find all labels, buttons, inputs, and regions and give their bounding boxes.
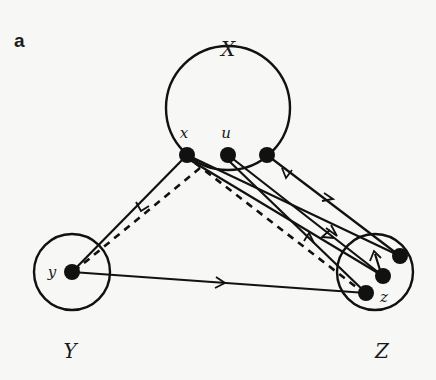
edge-z-u [228, 160, 366, 293]
node-z2 [375, 268, 391, 284]
node-label-z: z [379, 288, 388, 306]
edge-x-y [72, 155, 187, 272]
edges [72, 155, 400, 293]
set-label-Y: Y [63, 339, 78, 363]
panel-label: a [14, 30, 25, 51]
edge-x-y-dashed [78, 168, 200, 268]
set-label-X: X [219, 37, 236, 61]
set-label-Z: Z [374, 339, 390, 363]
node-z1 [392, 248, 408, 264]
node-y [64, 264, 80, 280]
node-label-x: x [180, 124, 189, 142]
node-z [358, 285, 374, 301]
node-label-u: u [221, 124, 231, 142]
edge-w-z1 [267, 155, 400, 256]
edge-u-z2 [228, 155, 383, 276]
node-x [179, 147, 195, 163]
arrowhead-u-z2 [326, 225, 337, 236]
node-u [220, 147, 236, 163]
node-w [259, 147, 275, 163]
figure-panel-a: a X Y Z [0, 0, 436, 380]
graph-diagram: a X Y Z [0, 0, 436, 380]
node-label-y: y [47, 263, 57, 281]
edge-y-z [72, 272, 366, 293]
